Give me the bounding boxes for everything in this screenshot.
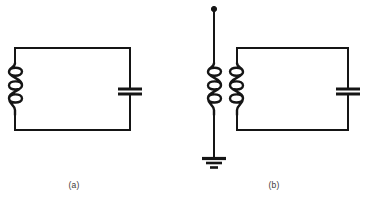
inductor-coil-a xyxy=(9,63,22,115)
figure-canvas: (a) (b) xyxy=(0,0,369,203)
primary-coil-b xyxy=(208,63,221,115)
panel-b xyxy=(202,6,360,167)
circuit-loop-a-lower xyxy=(15,95,130,130)
circuit-loop-a xyxy=(15,48,130,88)
panel-b-caption: (b) xyxy=(262,181,286,190)
circuit-loop-b-lower xyxy=(237,95,348,130)
panel-a xyxy=(9,48,142,130)
panel-a-caption: (a) xyxy=(62,181,86,190)
circuit-loop-b xyxy=(237,48,348,88)
secondary-coil-b xyxy=(230,63,243,115)
circuit-diagram xyxy=(0,0,369,203)
